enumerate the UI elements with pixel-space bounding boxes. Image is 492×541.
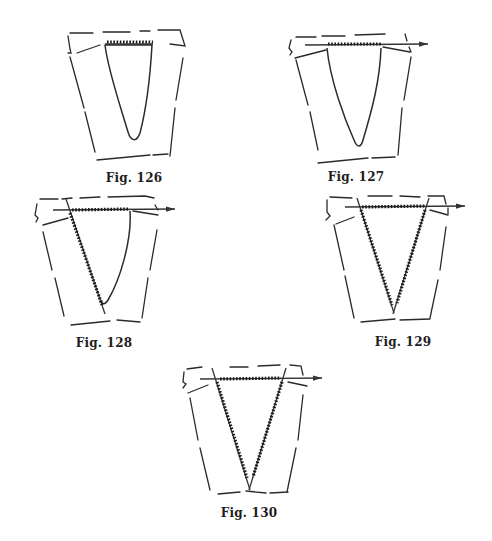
figure-129-drawing (326, 196, 465, 322)
knitting-illustrations (0, 0, 492, 541)
figure-129-caption: Fig. 129 (375, 335, 431, 349)
figure-130-caption: Fig. 130 (221, 506, 277, 520)
figure-128-drawing (35, 196, 175, 325)
v-neck-outline-126 (105, 45, 152, 140)
figure-127-drawing (289, 34, 428, 163)
figure-126-caption: Fig. 126 (106, 171, 162, 185)
figure-126-drawing (68, 30, 185, 160)
knitting-needle-top (200, 378, 322, 379)
figure-130-drawing (183, 365, 322, 494)
book-page: Fig. 126 Fig. 127 Fig. 128 Fig. 129 Fig.… (0, 0, 492, 541)
figure-128-caption: Fig. 128 (76, 336, 132, 350)
figure-127-caption: Fig. 127 (328, 170, 384, 184)
